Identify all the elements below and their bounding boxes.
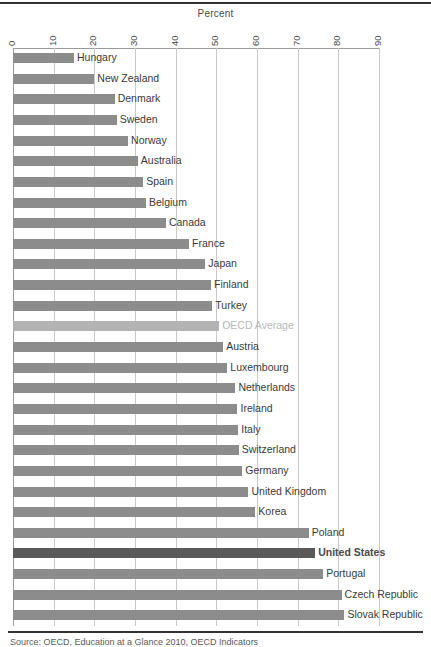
x-tick-label-40: 40 xyxy=(169,35,180,46)
bar[interactable] xyxy=(13,466,242,476)
bar-label: Poland xyxy=(312,525,345,540)
bar[interactable] xyxy=(13,487,248,497)
bar-label: Luxembourg xyxy=(230,360,288,375)
bar-label: OECD Average xyxy=(222,318,294,333)
bar-row[interactable]: Portugal xyxy=(13,564,379,585)
bar[interactable] xyxy=(13,321,219,331)
bar[interactable] xyxy=(13,445,239,455)
bar[interactable] xyxy=(13,528,309,538)
bar[interactable] xyxy=(13,53,74,63)
bar-label: Hungary xyxy=(77,50,117,65)
bar-row[interactable]: Italy xyxy=(13,420,379,441)
bar-row[interactable]: Australia xyxy=(13,151,379,172)
bar-label: Netherlands xyxy=(238,380,295,395)
bar-row[interactable]: Turkey xyxy=(13,296,379,317)
bar[interactable] xyxy=(13,259,205,269)
bar[interactable] xyxy=(13,115,117,125)
bar-row[interactable]: Japan xyxy=(13,254,379,275)
bar-row[interactable]: Spain xyxy=(13,172,379,193)
bar-row[interactable]: Netherlands xyxy=(13,378,379,399)
x-tick-label-30: 30 xyxy=(128,35,139,46)
bar-row[interactable]: Denmark xyxy=(13,89,379,110)
bar-row[interactable]: Canada xyxy=(13,213,379,234)
bar-label: France xyxy=(192,236,225,251)
bar-row[interactable]: Germany xyxy=(13,461,379,482)
bar[interactable] xyxy=(13,74,94,84)
bar[interactable] xyxy=(13,610,344,620)
bar[interactable] xyxy=(13,301,212,311)
plot-area: HungaryNew ZealandDenmarkSwedenNorwayAus… xyxy=(13,48,379,626)
x-axis-title: Percent xyxy=(0,8,431,19)
bar-row[interactable]: OECD Average xyxy=(13,316,379,337)
bar[interactable] xyxy=(13,383,235,393)
x-tick-label-80: 80 xyxy=(331,35,342,46)
bar[interactable] xyxy=(13,218,166,228)
bar[interactable] xyxy=(13,177,143,187)
bar[interactable] xyxy=(13,198,146,208)
bar-row[interactable]: New Zealand xyxy=(13,69,379,90)
x-tick-label-50: 50 xyxy=(209,35,220,46)
bar-label: Turkey xyxy=(215,298,247,313)
bar[interactable] xyxy=(13,548,315,558)
bar-row[interactable]: Slovak Republic xyxy=(13,605,379,626)
bar-row[interactable]: Belgium xyxy=(13,193,379,214)
x-tick-label-90: 90 xyxy=(372,35,383,46)
bar-label: Spain xyxy=(146,174,173,189)
bar[interactable] xyxy=(13,136,128,146)
bar-label: Belgium xyxy=(149,195,187,210)
bar-row[interactable]: France xyxy=(13,234,379,255)
bar-label: Norway xyxy=(131,133,167,148)
source-note: Source: OECD, Education at a Glance 2010… xyxy=(10,637,430,647)
bar-label: United States xyxy=(318,545,385,560)
bar-label: Italy xyxy=(241,422,260,437)
bar-row[interactable]: Luxembourg xyxy=(13,358,379,379)
bar-label: Germany xyxy=(245,463,288,478)
bar-row[interactable]: United Kingdom xyxy=(13,482,379,503)
bar-label: United Kingdom xyxy=(251,484,326,499)
chart-figure: Percent 0102030405060708090 HungaryNew Z… xyxy=(0,0,431,647)
bar-label: Finland xyxy=(214,277,248,292)
bar[interactable] xyxy=(13,156,138,166)
bar-row[interactable]: Poland xyxy=(13,523,379,544)
bar[interactable] xyxy=(13,404,237,414)
bar[interactable] xyxy=(13,569,323,579)
bar-row[interactable]: Austria xyxy=(13,337,379,358)
bar-row[interactable]: Norway xyxy=(13,131,379,152)
bar-label: Austria xyxy=(226,339,259,354)
bar[interactable] xyxy=(13,507,255,517)
bar-label: Czech Republic xyxy=(345,587,419,602)
bar-label: Canada xyxy=(169,215,206,230)
x-tick-label-70: 70 xyxy=(291,35,302,46)
bar[interactable] xyxy=(13,239,189,249)
bar[interactable] xyxy=(13,342,223,352)
bar-label: Korea xyxy=(258,504,286,519)
bar-label: Switzerland xyxy=(242,442,296,457)
bar-row[interactable]: Finland xyxy=(13,275,379,296)
bar-label: New Zealand xyxy=(97,71,159,86)
bar-label: Japan xyxy=(208,256,237,271)
bar-row[interactable]: Czech Republic xyxy=(13,585,379,606)
bar[interactable] xyxy=(13,94,115,104)
bar-row[interactable]: Switzerland xyxy=(13,440,379,461)
bar-row[interactable]: Ireland xyxy=(13,399,379,420)
bar[interactable] xyxy=(13,590,342,600)
bar-label: Portugal xyxy=(326,566,365,581)
bar-label: Sweden xyxy=(120,112,158,127)
x-tick-label-0: 0 xyxy=(6,41,17,46)
bar-label: Slovak Republic xyxy=(347,607,422,622)
bar[interactable] xyxy=(13,280,211,290)
bar-row[interactable]: Sweden xyxy=(13,110,379,131)
gridline-90 xyxy=(379,48,380,626)
top-divider xyxy=(0,2,431,4)
x-axis-tick-labels: 0102030405060708090 xyxy=(0,22,431,46)
bar-label: Ireland xyxy=(240,401,272,416)
bar-row[interactable]: Hungary xyxy=(13,48,379,69)
bar[interactable] xyxy=(13,363,227,373)
x-tick-label-60: 60 xyxy=(250,35,261,46)
bar[interactable] xyxy=(13,425,238,435)
bottom-divider xyxy=(8,631,423,633)
bar-row[interactable]: United States xyxy=(13,543,379,564)
x-tick-label-10: 10 xyxy=(47,35,58,46)
bar-label: Australia xyxy=(141,153,182,168)
bar-row[interactable]: Korea xyxy=(13,502,379,523)
